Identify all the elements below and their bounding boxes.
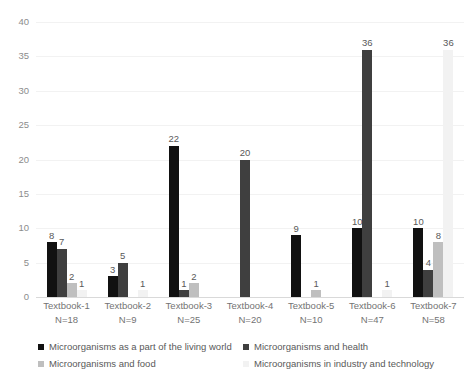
- bar-value-label: 2: [69, 272, 74, 282]
- bar-value-label: 20: [240, 148, 251, 158]
- legend-label: Microorganisms as a part of the living w…: [49, 341, 232, 352]
- bar-slot: [199, 22, 209, 297]
- bar-value-label: 10: [352, 217, 363, 227]
- bar-slot: 8: [47, 22, 57, 297]
- bar-slot: [321, 22, 331, 297]
- x-axis-sample-size-label: N=10: [281, 313, 342, 327]
- bar[interactable]: [413, 228, 423, 297]
- bar-value-label: 10: [413, 217, 424, 227]
- x-axis-tick: Textbook-2N=9: [97, 299, 158, 327]
- bar[interactable]: [433, 242, 443, 297]
- bar-slot: 1: [382, 22, 392, 297]
- y-axis-tick-label: 15: [18, 189, 29, 199]
- bar-cluster: 20: [219, 22, 280, 297]
- bar-slot: [128, 22, 138, 297]
- x-axis-tick: Textbook-1N=18: [36, 299, 97, 327]
- bar-clusters: 87213512212209110361104836: [36, 22, 464, 297]
- x-axis-category-label: Textbook-3: [158, 299, 219, 313]
- y-axis-tick-label: 0: [24, 292, 29, 302]
- y-axis-tick-label: 30: [18, 86, 29, 96]
- bar[interactable]: [291, 235, 301, 297]
- bar-value-label: 1: [313, 279, 318, 289]
- bar-slot: [372, 22, 382, 297]
- y-axis-tick-label: 20: [18, 155, 29, 165]
- x-axis-tick: Textbook-5N=10: [281, 299, 342, 327]
- bar-slot: 2: [189, 22, 199, 297]
- bar-value-label: 8: [49, 231, 54, 241]
- bar[interactable]: [423, 270, 433, 298]
- x-axis-labels: Textbook-1N=18Textbook-2N=9Textbook-3N=2…: [36, 299, 464, 327]
- bar-slot: 3: [108, 22, 118, 297]
- bar-value-label: 1: [140, 279, 145, 289]
- bar-slot: 5: [118, 22, 128, 297]
- y-axis-tick-label: 5: [24, 258, 29, 268]
- bar-slot: [260, 22, 270, 297]
- y-axis-tick-label: 10: [18, 224, 29, 234]
- legend-swatch-icon: [243, 361, 249, 367]
- bar-slot: 9: [291, 22, 301, 297]
- legend-swatch-icon: [243, 344, 249, 350]
- bar-cluster: 10361: [342, 22, 403, 297]
- legend-item[interactable]: Microorganisms in industry and technolog…: [243, 355, 453, 372]
- bar[interactable]: [179, 290, 189, 297]
- x-axis-category-label: Textbook-7: [403, 299, 464, 313]
- bar[interactable]: [47, 242, 57, 297]
- x-axis-tick: Textbook-4N=20: [219, 299, 280, 327]
- bar-value-label: 2: [191, 272, 196, 282]
- bar-cluster: 104836: [403, 22, 464, 297]
- bar-slot: 7: [57, 22, 67, 297]
- bar-value-label: 5: [120, 251, 125, 261]
- bar[interactable]: [57, 249, 67, 297]
- bar[interactable]: [362, 50, 372, 298]
- bar-slot: [250, 22, 260, 297]
- x-axis-sample-size-label: N=25: [158, 313, 219, 327]
- legend-label: Microorganisms and health: [254, 341, 368, 352]
- bar[interactable]: [77, 290, 87, 297]
- bar-group: 91: [281, 22, 342, 297]
- bar-slot: 8: [433, 22, 443, 297]
- chart-legend: Microorganisms as a part of the living w…: [38, 338, 453, 372]
- x-axis-sample-size-label: N=18: [36, 313, 97, 327]
- bar[interactable]: [443, 50, 453, 298]
- bar-value-label: 1: [181, 279, 186, 289]
- bar-slot: 2: [67, 22, 77, 297]
- x-axis-category-label: Textbook-6: [342, 299, 403, 313]
- bar-slot: 1: [77, 22, 87, 297]
- x-axis-tick: Textbook-7N=58: [403, 299, 464, 327]
- bar[interactable]: [189, 283, 199, 297]
- bar[interactable]: [240, 160, 250, 298]
- bar-group: 10361: [342, 22, 403, 297]
- bar-slot: 36: [443, 22, 453, 297]
- bar-slot: 10: [413, 22, 423, 297]
- bar-value-label: 1: [79, 279, 84, 289]
- bar[interactable]: [67, 283, 77, 297]
- bar[interactable]: [169, 146, 179, 297]
- bar[interactable]: [138, 290, 148, 297]
- bar[interactable]: [118, 263, 128, 297]
- bar-slot: 36: [362, 22, 372, 297]
- bar[interactable]: [311, 290, 321, 297]
- x-axis-category-label: Textbook-5: [281, 299, 342, 313]
- bar-cluster: 351: [97, 22, 158, 297]
- bar-value-label: 22: [169, 134, 180, 144]
- bar[interactable]: [352, 228, 362, 297]
- bar-slot: 10: [352, 22, 362, 297]
- legend-swatch-icon: [38, 344, 44, 350]
- bar[interactable]: [108, 276, 118, 297]
- bar[interactable]: [382, 290, 392, 297]
- bar-cluster: 2212: [158, 22, 219, 297]
- bar-value-label: 9: [293, 224, 298, 234]
- legend-item[interactable]: Microorganisms and health: [243, 338, 453, 355]
- x-axis-category-label: Textbook-2: [97, 299, 158, 313]
- bar-slot: 20: [240, 22, 250, 297]
- legend-item[interactable]: Microorganisms and food: [38, 355, 243, 372]
- x-axis-sample-size-label: N=58: [403, 313, 464, 327]
- bar-group: 20: [219, 22, 280, 297]
- x-axis-category-label: Textbook-1: [36, 299, 97, 313]
- legend-item[interactable]: Microorganisms as a part of the living w…: [38, 338, 243, 355]
- x-axis-category-label: Textbook-4: [219, 299, 280, 313]
- bar-value-label: 36: [362, 38, 373, 48]
- x-axis-tick: Textbook-3N=25: [158, 299, 219, 327]
- bar-slot: 1: [311, 22, 321, 297]
- bar-value-label: 8: [436, 231, 441, 241]
